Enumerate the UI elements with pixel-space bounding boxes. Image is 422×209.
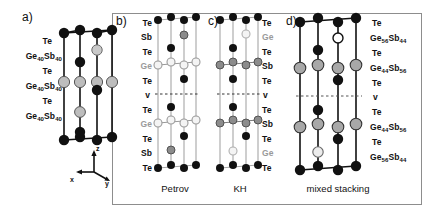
panel-b-label-6: Te [143, 105, 153, 115]
panel-a-label-4: Te [43, 96, 53, 106]
panel-b-label-7: Ge [140, 119, 152, 129]
panel-b-label-10: Te [143, 163, 153, 173]
panel-b-caption: Petrov [161, 183, 188, 194]
panel-a-label-1: Ge40Sb40 [26, 51, 62, 61]
panel-a-letter: a) [22, 10, 33, 24]
panel-b-label-0: Te [143, 18, 153, 28]
panel-c-label-2: Te [262, 47, 272, 57]
panel-d-label-3: Ge44Sb56 [370, 63, 406, 73]
panel-c-label-1: Ge [262, 32, 274, 42]
panel-b-label-4: Te [143, 76, 153, 86]
panel-a-label-3: Ge40Sb40 [26, 81, 62, 91]
panel-c-label-8: Te [262, 134, 272, 144]
panel-a-label-5: Ge40Sb40 [26, 111, 62, 121]
panel-d-label-2: Te [372, 48, 382, 58]
panel-c-label-7: Sb [262, 119, 273, 129]
panel-b-label-2: Te [143, 47, 153, 57]
axis-label-x: x [70, 176, 74, 183]
panel-c-label-6: Te [262, 105, 272, 115]
axis-label-z: z [96, 145, 100, 152]
panel-b-label-8: Te [143, 134, 153, 144]
panel-c-letter: c) [208, 14, 218, 28]
panel-d-label-5-vacancy: v [373, 92, 378, 102]
panel-b-label-3: Ge [140, 61, 152, 71]
panel-d-label-9: Ge56Sb44 [370, 152, 406, 162]
panel-c-label-10: Te [262, 163, 272, 173]
panel-b-letter: b) [116, 14, 127, 28]
panel-d-label-6: Te [372, 107, 382, 117]
panel-b-label-1: Sb [141, 32, 152, 42]
panel-b-label-9: Sb [141, 148, 152, 158]
figure-canvas: a) Te Ge40Sb40 Te Ge40Sb40 Te Ge40Sb40 z… [0, 0, 422, 209]
panel-c-caption: KH [233, 183, 246, 194]
panel-c-label-4: Te [262, 76, 272, 86]
panel-d-label-0: Te [372, 18, 382, 28]
panel-d-caption: mixed stacking [307, 183, 370, 194]
panel-a-structure [58, 25, 117, 145]
panel-d-label-1: Ge56Sb44 [370, 33, 406, 43]
panel-b-label-5-vacancy: v [145, 90, 150, 100]
panel-d-label-8: Te [372, 137, 382, 147]
axis-tripod [78, 152, 108, 180]
panel-d-label-7: Ge44Sb56 [370, 122, 406, 132]
panel-c-label-3: Sb [262, 61, 273, 71]
panel-d-label-4: Te [372, 78, 382, 88]
panel-a-label-2: Te [43, 66, 53, 76]
panel-a-label-0: Te [43, 36, 53, 46]
panel-c-label-5-vacancy: v [263, 90, 268, 100]
axis-label-y: y [105, 180, 109, 187]
panel-d-letter: d) [286, 14, 297, 28]
panel-c-label-9: Ge [262, 148, 274, 158]
panel-c-label-0: Te [262, 18, 272, 28]
